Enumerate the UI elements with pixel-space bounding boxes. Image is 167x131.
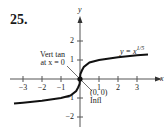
x-tick-label: 3: [130, 84, 144, 92]
vert-tan-leader: [67, 66, 78, 77]
x-tick-label: −1: [54, 84, 68, 92]
y-tick-label: 1: [64, 56, 74, 64]
inflection-point: [77, 76, 82, 81]
y-axis-label: y: [78, 6, 82, 14]
x-tick-label: −2: [35, 84, 49, 92]
y-tick-label: 2: [64, 37, 74, 45]
curve-label: y = x1/5: [120, 44, 144, 56]
graph-plot: [0, 0, 167, 131]
curve-label-exponent: 1/5: [137, 45, 145, 51]
origin-annotation: (0, 0) Infl: [90, 89, 107, 105]
y-tick-label: −1: [62, 94, 74, 102]
x-tick-label: 2: [111, 84, 125, 92]
x-axis-label: x: [160, 75, 164, 83]
y-axis-arrow-icon: [78, 16, 83, 23]
x-tick-label: −3: [16, 84, 30, 92]
vert-tan-annotation: Vert tan at x = 0: [40, 51, 65, 67]
curve-label-base: y = x: [120, 47, 137, 56]
vert-tan-line2: at x = 0: [40, 59, 65, 67]
y-tick-label: −2: [62, 113, 74, 121]
inflection-label: Infl: [90, 97, 107, 105]
